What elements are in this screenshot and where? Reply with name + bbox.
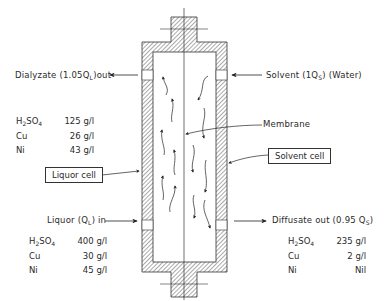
- solvent-cell-label: Solvent cell: [268, 148, 331, 164]
- cell-body: [142, 17, 227, 297]
- solvent-in-label: Solvent (1QS) (Water): [266, 70, 362, 81]
- solvent-cell-leader: [229, 155, 268, 163]
- dialyzate-out-label: Dialyzate (1.05QL)out: [15, 70, 111, 81]
- liquor-cell-leader: [102, 171, 139, 175]
- membrane-label: Membrane: [263, 119, 310, 129]
- liquor-in-label: Liquor (QL) in: [47, 215, 106, 226]
- liquor-cell-label: Liquor cell: [45, 167, 103, 183]
- diffusate-out-label: Diffusate out (0.95 QS): [272, 215, 373, 226]
